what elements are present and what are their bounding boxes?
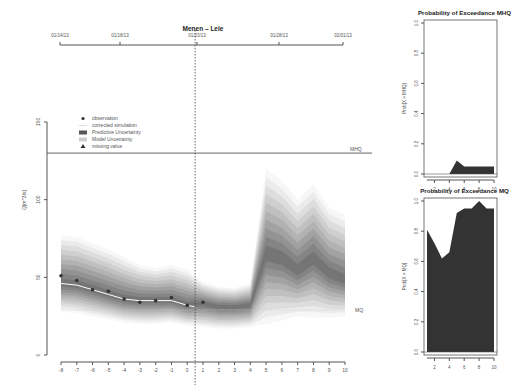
main-chart-title: Menen – Leie [183,25,224,32]
legend-observation-icon [81,117,84,120]
mq-exceedance-x-tick-label: 2 [433,365,436,370]
mq-exceedance-x-tick-label: 8 [478,365,481,370]
observation-point [59,274,63,278]
y-tick-label: 100 [35,195,41,204]
y-tick-label: 0 [35,353,41,356]
mq-exceedance-y-tick-label: 1.0 [414,197,419,204]
observation-point [91,288,95,292]
x-tick-label: 10 [342,367,348,373]
date-tick-label: 01/28/13 [270,33,288,38]
observation-point [154,299,158,303]
hydrograph-figure: MHQMQ050100150Q[m^3/s]-8-7-6-5-4-3-2-101… [0,0,529,392]
x-tick-label: 3 [233,367,236,373]
mhq-exceedance-area [427,160,494,174]
x-tick-label: -8 [59,367,64,373]
y-tick-label: 150 [35,118,41,127]
legend-label: corrected simulation [92,122,137,128]
x-tick-label: -1 [169,367,174,373]
mq-exceedance-y-tick-label: 0.8 [414,228,419,235]
legend-label: observation [92,115,118,121]
observation-point [107,290,111,294]
mhq-exceedance-title: Probability of Exceedance MHQ [418,9,511,16]
x-tick-label: 2 [217,367,220,373]
observation-point [170,296,174,300]
mq-exceedance-y-tick-label: 0.4 [414,288,419,295]
mq-exceedance-y-tick-label: 0.6 [414,258,419,265]
x-tick-label: 5 [265,367,268,373]
x-tick-label: -3 [138,367,143,373]
mhq-exceedance-y-axis-label: Prob[X > MHQ] [402,83,407,114]
mq-exceedance-area [427,201,494,352]
mq-label: MQ [355,307,363,313]
legend-model-icon [79,138,87,142]
date-tick-label: 01/14/13 [51,33,69,38]
x-tick-label: 0 [186,367,189,373]
x-tick-label: 8 [312,367,315,373]
mhq-exceedance-y-tick-label: 0.0 [414,170,419,177]
observation-point [201,300,205,304]
mhq-exceedance-y-tick-label: 0.2 [414,140,419,147]
mq-exceedance-x-tick-label: 10 [491,365,497,370]
x-tick-label: -4 [122,367,127,373]
mq-exceedance-y-tick-label: 0.2 [414,318,419,325]
mq-exceedance-x-tick-label: 6 [463,365,466,370]
observation-point [122,297,126,301]
y-axis-label: Q[m^3/s] [21,189,27,209]
date-tick-label: 01/23/13 [188,33,206,38]
observation-point [138,300,142,304]
mq-exceedance-x-tick-label: 4 [448,365,451,370]
uncertainty-bands [61,169,345,329]
mq-exceedance-y-axis-label: Prob[X > MQ] [402,263,407,290]
x-tick-label: 9 [328,367,331,373]
x-tick-label: 7 [296,367,299,373]
observation-point [75,279,79,283]
mq-exceedance-title: Probability of Exceedance MQ [420,187,509,194]
mhq-exceedance-y-tick-label: 0.6 [414,80,419,87]
x-tick-label: 4 [249,367,252,373]
x-tick-label: 6 [280,367,283,373]
date-tick-label: 01/18/13 [111,33,129,38]
legend-label: missing value [92,143,123,149]
date-tick-label: 02/01/13 [334,33,352,38]
x-tick-label: -5 [106,367,111,373]
observation-point [185,303,189,307]
mhq-label: MHQ [350,146,362,152]
mhq-exceedance-y-tick-label: 0.8 [414,50,419,57]
mhq-exceedance-y-tick-label: 0.4 [414,110,419,117]
x-tick-label: 1 [202,367,205,373]
legend-missing-icon [81,144,86,148]
mq-exceedance-y-tick-label: 0.0 [414,348,419,355]
legend-label: Model Uncertainty [92,136,133,142]
legend-label: Predictive Uncertainty [92,129,141,135]
x-tick-label: -6 [90,367,95,373]
y-tick-label: 50 [35,274,41,280]
x-tick-label: -7 [75,367,80,373]
mhq-exceedance-y-tick-label: 1.0 [414,19,419,26]
mhq-exceedance-frame [424,20,497,177]
legend-predictive-icon [79,131,87,135]
x-tick-label: -2 [153,367,158,373]
